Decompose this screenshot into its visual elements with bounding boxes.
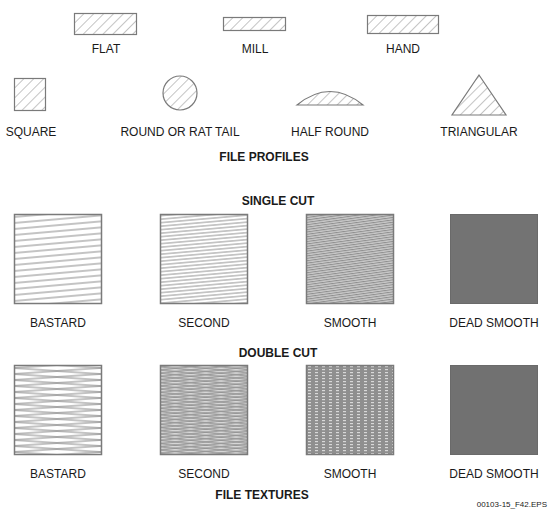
triangular-profile-icon: [451, 74, 507, 116]
single-cut-smooth-texture: [306, 214, 394, 304]
file-profiles-title: FILE PROFILES: [219, 150, 308, 164]
single-cut-label-second: SECOND: [178, 316, 229, 330]
double-cut-second-texture: [160, 365, 248, 455]
square-profile-icon: [14, 78, 46, 111]
single-cut-label-bastard: BASTARD: [30, 316, 86, 330]
profile-label-mill: MILL: [242, 42, 269, 56]
double-cut-bastard-texture: [14, 365, 102, 455]
profile-label-triangular: TRIANGULAR: [440, 125, 517, 139]
single-cut-label-dead-smooth: DEAD SMOOTH: [449, 316, 538, 330]
profile-label-round: ROUND OR RAT TAIL: [120, 125, 239, 139]
figure-id: 00103-15_F42.EPS: [477, 500, 547, 509]
double-cut-dead-smooth-texture: [450, 365, 538, 455]
double-cut-label-bastard: BASTARD: [30, 467, 86, 481]
single-cut-dead-smooth-texture: [450, 214, 538, 304]
single-cut-bastard-texture: [14, 214, 102, 304]
double-cut-smooth-texture: [306, 365, 394, 455]
profile-label-flat: FLAT: [92, 42, 120, 56]
single-cut-second-texture: [160, 214, 248, 304]
single-cut-label-smooth: SMOOTH: [324, 316, 377, 330]
single-cut-title: SINGLE CUT: [242, 194, 315, 208]
round-profile-icon: [162, 75, 198, 111]
flat-profile-icon: [74, 13, 138, 35]
double-cut-label-second: SECOND: [178, 467, 229, 481]
profile-label-square: SQUARE: [6, 125, 57, 139]
double-cut-title: DOUBLE CUT: [239, 346, 318, 360]
double-cut-label-smooth: SMOOTH: [324, 467, 377, 481]
mill-profile-icon: [223, 17, 287, 31]
file-textures-title: FILE TEXTURES: [215, 488, 308, 502]
hand-profile-icon: [367, 15, 439, 34]
double-cut-label-dead-smooth: DEAD SMOOTH: [449, 467, 538, 481]
profile-label-half-round: HALF ROUND: [291, 125, 369, 139]
profile-label-hand: HAND: [386, 42, 420, 56]
half-round-profile-icon: [296, 86, 364, 106]
